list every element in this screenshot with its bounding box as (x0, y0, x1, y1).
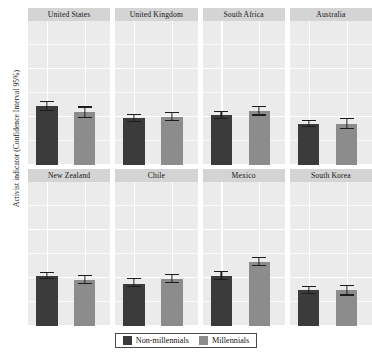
y-axis-title: Activist indicator (Confidence Interval … (12, 36, 21, 241)
bar-millennials (74, 112, 95, 165)
facet-plot-area (115, 21, 197, 165)
bar-container (28, 182, 110, 326)
facet-plot-area (115, 182, 197, 326)
bar-container (290, 182, 372, 326)
bar-millennials (336, 290, 357, 326)
error-bar-cap-upper (252, 106, 266, 107)
legend-swatch-icon (123, 336, 132, 345)
facet-panel: Australia (290, 8, 372, 165)
legend-box: Non-millennialsMillennials (115, 333, 258, 348)
facet-plot-area (290, 21, 372, 165)
error-bar-cap-upper (340, 118, 354, 119)
error-bar-cap-upper (40, 101, 54, 102)
error-bar-cap-lower (78, 283, 92, 284)
facet-plot-area (203, 21, 285, 165)
facet-panel: United States0246 (28, 8, 110, 165)
facet-panel: United Kingdom (115, 8, 197, 165)
bar-millennials (74, 280, 95, 326)
error-bar-cap-lower (252, 265, 266, 266)
error-bar-cap-lower (40, 110, 54, 111)
facet-strip-label: New Zealand (28, 169, 110, 182)
error-bar-cap-lower (340, 294, 354, 295)
bar-non-millennials (211, 115, 232, 165)
bar-non-millennials (36, 106, 57, 165)
chart-legend: Non-millennialsMillennials (0, 333, 372, 348)
legend-item[interactable]: Millennials (199, 336, 249, 345)
error-bar-cap-upper (78, 275, 92, 276)
bar-non-millennials (36, 276, 57, 326)
legend-swatch-icon (199, 336, 208, 345)
facet-plot-area (290, 182, 372, 326)
error-bar-cap-lower (214, 118, 228, 119)
error-bar-cap-upper (214, 111, 228, 112)
error-bar-cap-lower (127, 286, 141, 287)
facet-panel: South Korea (290, 169, 372, 326)
error-bar-cap-upper (78, 106, 92, 107)
facet-panel: Mexico (203, 169, 285, 326)
error-bar-cap-lower (214, 279, 228, 280)
bar-container (203, 21, 285, 165)
error-bar-cap-upper (40, 272, 54, 273)
facet-panel: Chile (115, 169, 197, 326)
facet-panel: South Africa (203, 8, 285, 165)
bar-millennials (249, 111, 270, 165)
bar-non-millennials (298, 290, 319, 326)
error-bar-cap-upper (252, 257, 266, 258)
facet-panel: New Zealand0246 (28, 169, 110, 326)
error-bar-cap-upper (165, 274, 179, 275)
bar-non-millennials (123, 284, 144, 326)
error-bar-cap-upper (214, 271, 228, 272)
activist-indicator-chart: Activist indicator (Confidence Interval … (0, 0, 372, 364)
bar-container (28, 21, 110, 165)
bar-container (115, 21, 197, 165)
facet-strip-label: Chile (115, 169, 197, 182)
bar-millennials (161, 117, 182, 165)
error-bar-cap-upper (302, 286, 316, 287)
facet-strip-label: South Korea (290, 169, 372, 182)
error-bar-cap-lower (78, 117, 92, 118)
legend-item[interactable]: Non-millennials (123, 336, 189, 345)
facet-strip-label: United States (28, 8, 110, 21)
facet-strip-label: South Africa (203, 8, 285, 21)
error-bar-cap-lower (165, 282, 179, 283)
facet-plot-area (203, 182, 285, 326)
facet-plot-area: 0246 (28, 21, 110, 165)
error-bar-cap-lower (252, 114, 266, 115)
bar-millennials (249, 262, 270, 326)
error-bar-cap-upper (302, 120, 316, 121)
legend-label: Non-millennials (136, 336, 189, 345)
error-bar-cap-lower (127, 121, 141, 122)
legend-label: Millennials (212, 336, 249, 345)
bar-millennials (161, 279, 182, 326)
bar-millennials (336, 124, 357, 165)
error-bar-cap-lower (165, 120, 179, 121)
error-bar-cap-lower (302, 293, 316, 294)
error-bar-cap-lower (340, 128, 354, 129)
facet-grid: United States0246United KingdomSouth Afr… (28, 8, 372, 326)
error-bar-cap-lower (40, 278, 54, 279)
bar-non-millennials (123, 118, 144, 165)
facet-strip-label: United Kingdom (115, 8, 197, 21)
bar-container (203, 182, 285, 326)
facet-strip-label: Australia (290, 8, 372, 21)
facet-plot-area: 0246 (28, 182, 110, 326)
error-bar-cap-lower (302, 126, 316, 127)
bar-container (290, 21, 372, 165)
error-bar-cap-upper (340, 285, 354, 286)
error-bar-cap-upper (127, 114, 141, 115)
bar-non-millennials (298, 124, 319, 165)
error-bar-cap-upper (165, 112, 179, 113)
bar-container (115, 182, 197, 326)
error-bar-cap-upper (127, 278, 141, 279)
facet-strip-label: Mexico (203, 169, 285, 182)
bar-non-millennials (211, 276, 232, 326)
